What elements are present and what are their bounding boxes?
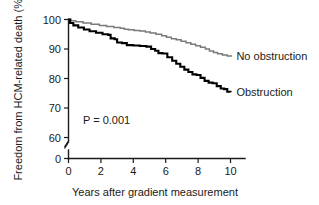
y-axis-break-icon — [65, 140, 70, 149]
series-label-no-obstruction: No obstruction — [236, 50, 307, 62]
x-tick-label-6: 6 — [163, 165, 169, 177]
x-tick-label-4: 4 — [130, 165, 136, 177]
y-tick-label-90: 90 — [49, 43, 61, 55]
chart-canvas: 100 90 80 70 60 0 0 2 4 6 8 10 Years aft… — [0, 0, 319, 205]
y-tick-label-100: 100 — [43, 14, 61, 26]
y-tick-label-80: 80 — [49, 73, 61, 85]
curves-group — [69, 20, 232, 93]
x-tick-labels: 0 2 4 6 8 10 — [65, 165, 236, 177]
x-tick-label-8: 8 — [195, 165, 201, 177]
x-axis-title: Years after gradient measurement — [72, 186, 238, 198]
survival-curve-figure: 100 90 80 70 60 0 0 2 4 6 8 10 Years aft… — [0, 0, 319, 205]
y-tick-labels: 100 90 80 70 60 0 — [43, 14, 61, 165]
y-axis-title: Freedom from HCM-related death (%) — [12, 0, 24, 181]
curve-obstruction — [69, 20, 231, 93]
y-tick-label-0: 0 — [55, 153, 61, 165]
x-tick-label-0: 0 — [65, 165, 71, 177]
y-tick-label-60: 60 — [49, 132, 61, 144]
p-value-annotation: P = 0.001 — [83, 114, 130, 126]
y-axis-group — [64, 19, 69, 159]
x-tick-label-2: 2 — [98, 165, 104, 177]
y-tick-label-70: 70 — [49, 102, 61, 114]
series-labels: No obstruction Obstruction — [236, 50, 307, 98]
curve-no-obstruction — [69, 20, 232, 57]
series-label-obstruction: Obstruction — [236, 86, 292, 98]
x-tick-label-10: 10 — [224, 165, 236, 177]
x-axis-group — [69, 159, 246, 164]
